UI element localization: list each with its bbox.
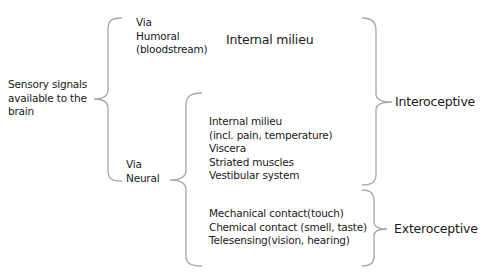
humoral-line-3: (bloodstream) (136, 43, 208, 57)
humoral-line-2: Humoral (136, 30, 208, 44)
list-item: Mechanical contact(touch) (209, 207, 367, 221)
brace-neural (170, 93, 202, 266)
interoceptive-label: Interoceptive (395, 94, 475, 109)
list-item: (incl. pain, temperature) (209, 129, 332, 143)
list-item: Telesensing(vision, hearing) (209, 234, 367, 248)
root-line-2: available to the (8, 92, 87, 106)
neural-line-2: Neural (126, 172, 159, 186)
root-label: Sensory signals available to the brain (8, 78, 87, 119)
list-item: Chemical contact (smell, taste) (209, 221, 367, 235)
list-item: Vestibular system (209, 169, 332, 183)
list-item: Striated muscles (209, 156, 332, 170)
interoceptive-items: Internal milieu (incl. pain, temperature… (209, 115, 332, 183)
root-line-1: Sensory signals (8, 78, 87, 92)
exteroceptive-items: Mechanical contact(touch) Chemical conta… (209, 207, 367, 248)
list-item: Internal milieu (209, 115, 332, 129)
humoral-target-label: Internal milieu (226, 32, 313, 47)
list-item: Viscera (209, 142, 332, 156)
humoral-line-1: Via (136, 16, 208, 30)
neural-line-1: Via (126, 158, 159, 172)
brace-root (94, 18, 122, 181)
neural-label: Via Neural (126, 158, 159, 185)
brace-interoceptive (362, 18, 392, 185)
exteroceptive-label: Exteroceptive (394, 221, 478, 236)
humoral-label: Via Humoral (bloodstream) (136, 16, 208, 57)
root-line-3: brain (8, 105, 87, 119)
